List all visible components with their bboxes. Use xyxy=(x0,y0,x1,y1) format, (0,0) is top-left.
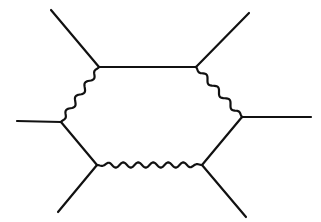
leg-top-right xyxy=(196,13,249,67)
edge-lower-right-straight-line xyxy=(202,117,242,165)
leg-bottom-left xyxy=(58,165,97,212)
leg-top-left xyxy=(51,10,99,67)
edge-lower-left-straight-line xyxy=(61,122,97,165)
leg-left xyxy=(17,121,61,122)
edge-top-left-wavy-line xyxy=(61,67,99,122)
leg-bottom-right xyxy=(202,165,246,217)
feynman-diagram xyxy=(0,0,321,222)
external-legs xyxy=(17,10,311,217)
internal-loop xyxy=(61,67,242,168)
edge-top-right-wavy-line xyxy=(196,67,242,117)
edge-bottom-wavy-line xyxy=(97,162,202,167)
